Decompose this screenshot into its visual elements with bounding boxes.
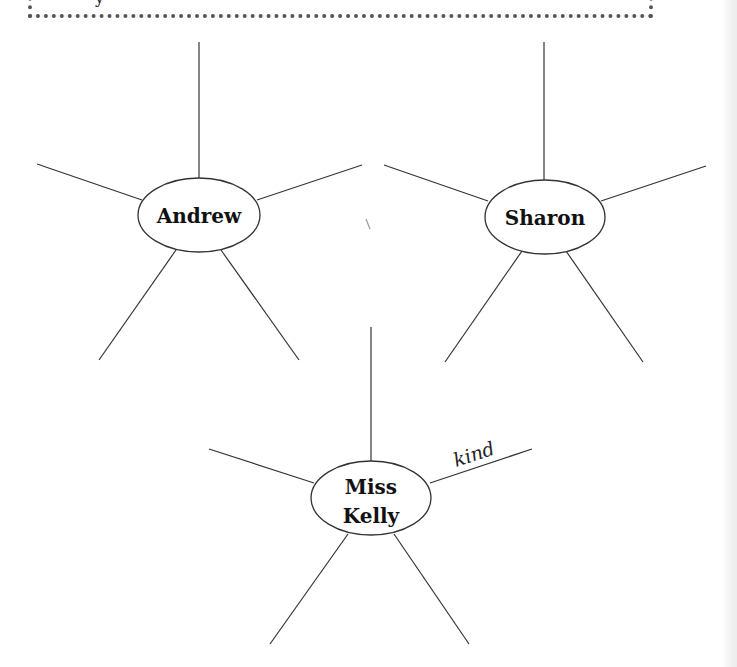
spoke-lower-left xyxy=(445,251,522,362)
spoke-upper-left xyxy=(37,164,142,200)
web-andrew: Andrew xyxy=(37,42,362,360)
web-miss-kelly: Miss Kelly kind xyxy=(209,327,532,644)
web-sharon: Sharon xyxy=(384,42,706,362)
character-webs-diagram: Andrew Sharon Miss Kelly kind xyxy=(0,0,737,667)
spoke-lower-right xyxy=(221,250,299,360)
spoke-lower-left xyxy=(270,534,348,644)
node-label: Sharon xyxy=(505,206,586,230)
spoke-upper-right xyxy=(257,165,362,200)
spoke-label-kind: kind xyxy=(450,437,497,471)
spoke-upper-right xyxy=(601,166,706,201)
spoke-upper-left xyxy=(384,165,488,201)
spoke-upper-left xyxy=(209,449,314,483)
node-label: Andrew xyxy=(156,204,242,228)
node-label-line-2: Kelly xyxy=(343,504,401,528)
stray-mark xyxy=(366,219,370,229)
node-label-line-1: Miss xyxy=(345,475,397,499)
spoke-lower-right xyxy=(566,251,643,362)
spoke-lower-left xyxy=(99,250,176,360)
spoke-lower-right xyxy=(394,534,469,644)
